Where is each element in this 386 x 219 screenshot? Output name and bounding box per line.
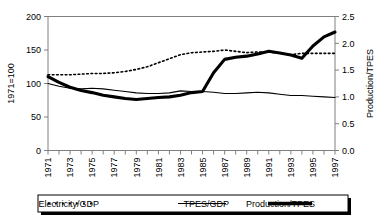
right-tick-label: 0.5 [342,119,355,129]
series-line-tpes-gdp [48,84,335,98]
chart-container: 050100150200 0.00.51.01.52.02.5 19711973… [0,0,386,219]
data-series-group [48,32,335,100]
left-tick-label: 100 [26,79,41,89]
x-axis-year-label: 1987 [220,158,230,178]
right-tick-label: 1.5 [342,65,355,75]
left-tick-label: 0 [36,146,41,156]
x-axis-year-label: 1979 [132,158,142,178]
right-axis-ticks: 0.00.51.01.52.02.5 [335,12,355,156]
x-axis-year-label: 1981 [154,158,164,178]
left-tick-label: 50 [31,112,41,122]
plot-frame [48,17,335,151]
x-axis-year-label: 1977 [109,158,119,178]
x-axis-year-label: 1973 [65,158,75,178]
right-axis-title: Production/TPES [365,49,375,118]
line-chart: 050100150200 0.00.51.01.52.02.5 19711973… [0,0,386,219]
series-line-electricity-gdp [48,50,335,75]
x-axis-year-label: 1975 [87,158,97,178]
left-axis-title: 1971=100 [6,63,16,103]
right-tick-label: 2.0 [342,39,355,49]
left-tick-label: 150 [26,45,41,55]
x-axis-year-label: 1985 [198,158,208,178]
x-axis-year-label: 1989 [242,158,252,178]
right-tick-label: 1.0 [342,92,355,102]
left-axis-ticks: 050100150200 [26,12,48,156]
x-axis-labels: 1971197319751977197919811983198519871989… [43,158,340,178]
right-tick-label: 2.5 [342,12,355,22]
legend-label: TPES/GDP [183,199,229,209]
left-tick-label: 200 [26,12,41,22]
legend-label: Production/TPES [246,199,315,209]
x-axis-year-label: 1983 [176,158,186,178]
x-axis-ticks [48,151,335,155]
x-axis-year-label: 1997 [330,158,340,178]
right-tick-label: 0.0 [342,146,355,156]
x-axis-year-label: 1995 [308,158,318,178]
x-axis-year-label: 1993 [286,158,296,178]
legend-label: Electricity/GDP [38,199,99,209]
series-line-production-tpes [48,32,335,100]
chart-legend: Electricity/GDPTPES/GDPProduction/TPES [38,195,351,215]
x-axis-year-label: 1991 [264,158,274,178]
x-axis-year-label: 1971 [43,158,53,178]
